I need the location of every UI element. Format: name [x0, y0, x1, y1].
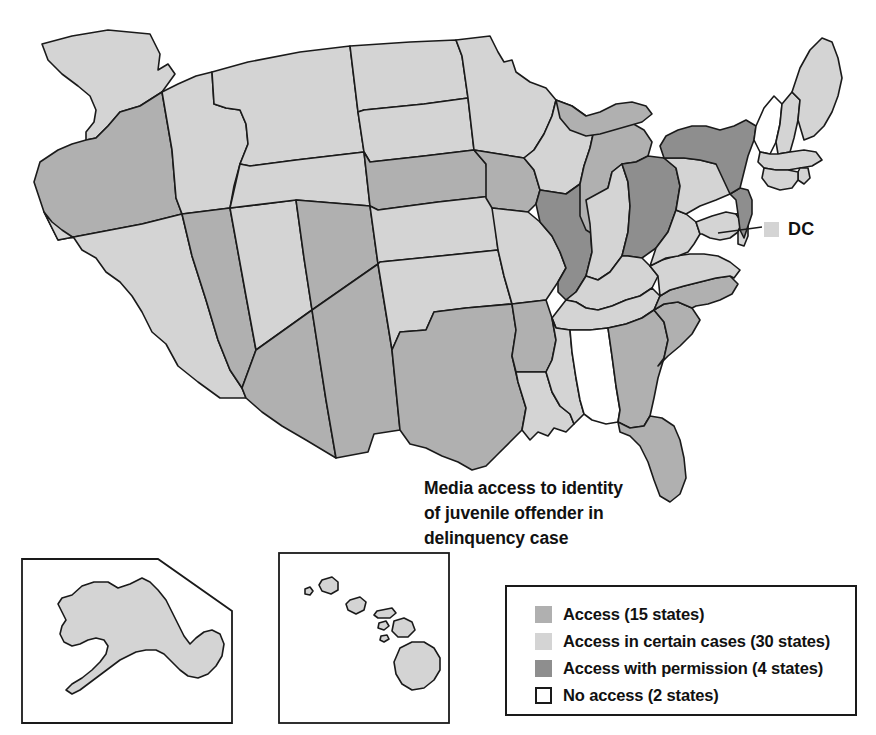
legend-label-no-access: No access (2 states): [563, 686, 719, 705]
legend-label-access-with-permission: Access with permission (4 states): [563, 659, 823, 678]
state-ME[interactable]: [792, 38, 842, 140]
chart-title-line-2: of juvenile offender in: [424, 501, 714, 526]
chart-title-line-3: delinquency case: [424, 526, 714, 551]
juvenile-media-access-map: Media access to identity of juvenile off…: [0, 0, 876, 735]
legend-label-access: Access (15 states): [563, 605, 704, 624]
legend: Access (15 states)Access in certain case…: [505, 585, 857, 716]
state-HI-kahoolawe[interactable]: [380, 635, 389, 642]
state-AK[interactable]: [58, 578, 224, 694]
legend-swatch-access: [535, 606, 552, 623]
legend-item-access[interactable]: Access (15 states): [535, 601, 855, 627]
alaska-inset: [22, 559, 232, 723]
legend-item-access-in-certain-cases[interactable]: Access in certain cases (30 states): [535, 628, 855, 654]
dc-label: DC: [788, 219, 815, 240]
legend-label-access-in-certain-cases: Access in certain cases (30 states): [563, 632, 830, 651]
state-HI-molokai[interactable]: [374, 608, 396, 618]
state-HI-niihau[interactable]: [305, 587, 313, 595]
state-HI-big-island[interactable]: [394, 642, 440, 690]
legend-swatch-access-in-certain-cases: [535, 633, 552, 650]
chart-title: Media access to identity of juvenile off…: [424, 476, 714, 551]
dc-swatch: [764, 222, 779, 237]
state-HI-oahu[interactable]: [346, 597, 366, 614]
state-RI[interactable]: [798, 168, 810, 184]
chart-title-line-1: Media access to identity: [424, 476, 714, 501]
state-HI-lanai[interactable]: [378, 621, 389, 630]
legend-swatch-no-access: [535, 687, 552, 704]
hawaii-inset: [279, 553, 449, 723]
state-CT[interactable]: [762, 168, 798, 190]
legend-list: Access (15 states)Access in certain case…: [507, 587, 855, 708]
state-HI-kauai[interactable]: [319, 577, 338, 594]
contiguous-states: [34, 30, 842, 502]
dc-callout: DC: [764, 219, 815, 240]
state-MD[interactable]: [696, 212, 742, 240]
state-AR[interactable]: [512, 300, 556, 372]
state-HI-maui[interactable]: [392, 618, 415, 637]
hawaii-inset-frame: [279, 553, 449, 723]
legend-swatch-access-with-permission: [535, 660, 552, 677]
legend-item-no-access[interactable]: No access (2 states): [535, 682, 855, 708]
legend-item-access-with-permission[interactable]: Access with permission (4 states): [535, 655, 855, 681]
state-MA[interactable]: [758, 150, 822, 170]
